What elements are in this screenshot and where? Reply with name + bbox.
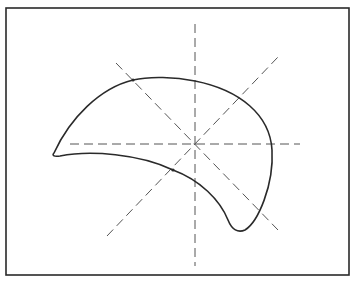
marked-point-inner — [171, 168, 174, 171]
diagonal-axis-up — [107, 57, 278, 236]
construction-axes — [70, 24, 300, 266]
frame-border — [6, 8, 349, 275]
diagonal-axis-down — [116, 63, 278, 230]
crescent-curve — [53, 77, 272, 231]
marked-point-top — [131, 78, 134, 81]
diagram-canvas — [0, 0, 360, 284]
